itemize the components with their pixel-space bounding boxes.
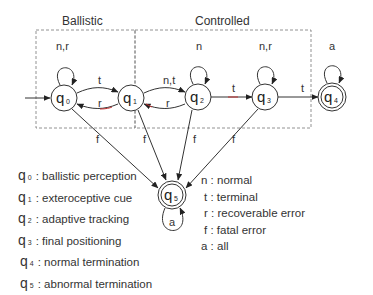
legend-row: q2: adaptive tracking — [18, 209, 152, 231]
svg-text:4: 4 — [334, 97, 338, 104]
legend-row: r : recoverable error — [201, 205, 305, 222]
loop-q2 — [190, 67, 206, 84]
legend-row: t : terminal — [201, 189, 305, 206]
edge-label: a — [329, 40, 336, 52]
svg-text:q: q — [123, 89, 131, 106]
loop-q4 — [324, 66, 340, 83]
state-q1: q 1 — [118, 85, 144, 111]
edge-label: n,r — [259, 40, 272, 52]
controlled-group-label: Controlled — [195, 14, 250, 28]
edge-label: t — [232, 82, 235, 94]
legend-row: q5: abnormal termination — [18, 274, 152, 295]
edge-label: f — [143, 133, 147, 145]
edge-label: t — [301, 82, 304, 94]
legend-row: q3: final positioning — [18, 231, 152, 253]
svg-text:0: 0 — [66, 98, 70, 105]
state-q5: q 5 — [158, 181, 186, 209]
legend-row: n : normal — [201, 172, 305, 189]
state-legend: q0: ballistic perception q1: exterocepti… — [18, 166, 152, 295]
loop-q3 — [257, 67, 273, 84]
edge-q2-q5 — [178, 110, 192, 180]
legend-row: a : all — [201, 238, 305, 255]
edge-label: a — [169, 216, 176, 228]
svg-text:2: 2 — [200, 97, 204, 104]
edge-q0-q1 — [77, 88, 118, 93]
legend-row: q0: ballistic perception — [18, 166, 152, 188]
svg-text:q: q — [190, 88, 198, 105]
svg-text:1: 1 — [133, 98, 137, 105]
controlled-group-box — [135, 30, 311, 128]
svg-text:q: q — [257, 88, 265, 105]
state-q2: q 2 — [185, 84, 211, 110]
edge-label: f — [193, 133, 197, 145]
svg-text:q: q — [324, 88, 332, 105]
svg-text:5: 5 — [174, 195, 178, 202]
edge-label: t — [98, 74, 101, 86]
state-q4: q 4 — [318, 83, 346, 111]
edge-label: r — [166, 97, 170, 109]
input-legend: n : normal t : terminal r : recoverable … — [201, 172, 305, 255]
legend-row: q1: exteroceptive cue — [18, 188, 152, 210]
svg-text:q: q — [56, 89, 64, 106]
edge-label: f — [232, 133, 236, 145]
loop-q0 — [57, 68, 73, 85]
ballistic-group-box — [36, 30, 135, 128]
legend-row: q4: normal termination — [18, 252, 152, 274]
edge-label: r — [98, 97, 102, 109]
ballistic-group-label: Ballistic — [62, 14, 103, 28]
svg-text:q: q — [164, 186, 172, 203]
edge-q1-q2 — [144, 88, 185, 93]
state-q3: q 3 — [252, 84, 278, 110]
edge-label: n,r — [56, 40, 69, 52]
svg-text:3: 3 — [267, 97, 271, 104]
edge-label: n,t — [163, 74, 175, 86]
edge-label: n — [196, 40, 202, 52]
state-q0: q 0 — [51, 85, 77, 111]
legend-row: f : fatal error — [201, 222, 305, 239]
